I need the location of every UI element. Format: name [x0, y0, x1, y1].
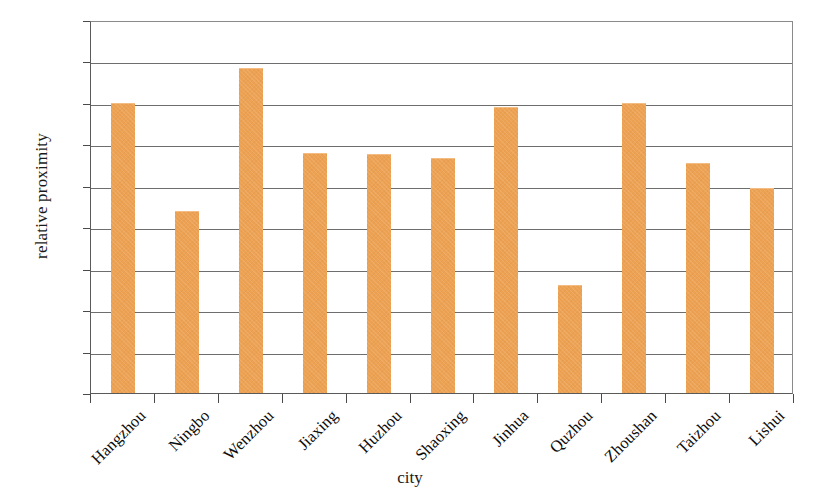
x-tick-mark [601, 394, 602, 403]
x-tick-label: Hangzhou [87, 406, 150, 469]
bar [431, 158, 455, 393]
x-tick-label: Shaoxing [411, 406, 470, 465]
y-tick-mark [83, 228, 90, 229]
x-axis-title: city [0, 468, 820, 488]
x-tick-mark [473, 394, 474, 403]
bar [303, 153, 327, 393]
x-tick-label: Wenzhou [219, 406, 277, 464]
x-tick-mark [665, 394, 666, 403]
x-tick-label: Jinhua [489, 406, 534, 451]
bar [622, 103, 646, 393]
x-tick-mark [537, 394, 538, 403]
x-tick-label: Taizhou [673, 406, 725, 458]
x-tick-label: Jiaxing [293, 406, 341, 454]
gridline [91, 146, 792, 147]
bar [750, 188, 774, 393]
bar [239, 68, 263, 393]
bar [686, 163, 710, 393]
x-tick-label: Zhoushan [601, 406, 662, 467]
gridline [91, 105, 792, 106]
bar [175, 211, 199, 393]
y-tick-mark [83, 353, 90, 354]
gridline [91, 63, 792, 64]
y-tick-mark [83, 21, 90, 22]
x-tick-label: Lishui [745, 406, 789, 450]
bar [558, 285, 582, 393]
bar [111, 103, 135, 393]
x-tick-label: Ningbo [164, 406, 214, 456]
x-tick-mark [282, 394, 283, 403]
plot-area [90, 21, 793, 394]
y-axis-title: relative proximity [32, 76, 52, 316]
y-tick-mark [83, 145, 90, 146]
y-tick-mark [83, 311, 90, 312]
y-tick-mark [83, 394, 90, 395]
y-tick-mark [83, 62, 90, 63]
y-tick-mark [83, 270, 90, 271]
x-tick-label: Quzhou [546, 406, 598, 458]
x-tick-mark [90, 394, 91, 403]
x-tick-mark [154, 394, 155, 403]
x-tick-mark [218, 394, 219, 403]
x-tick-mark [729, 394, 730, 403]
x-tick-mark [793, 394, 794, 403]
x-tick-label: Huzhou [354, 406, 406, 458]
bar-chart: relative proximity 0.900.800.700.600.500… [0, 0, 820, 492]
x-tick-mark [410, 394, 411, 403]
bar [367, 154, 391, 393]
x-tick-mark [346, 394, 347, 403]
y-tick-mark [83, 104, 90, 105]
bar [494, 107, 518, 393]
y-tick-mark [83, 187, 90, 188]
